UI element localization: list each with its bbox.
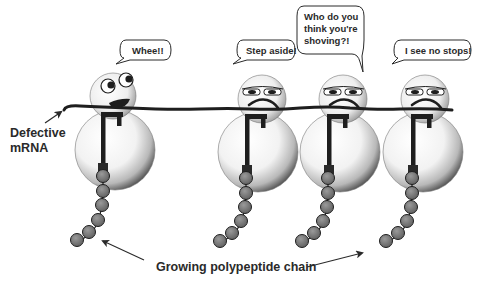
ribosome-1 bbox=[75, 73, 155, 190]
diagram-canvas: Whee!! Step aside! Who do you think you'… bbox=[0, 0, 479, 285]
ribosome-2 bbox=[218, 75, 298, 192]
speech-text-line2: think you're bbox=[304, 23, 357, 34]
speech-bubble-1: Whee!! bbox=[116, 40, 171, 64]
ribosome-large-subunit bbox=[383, 112, 463, 192]
ribosome-3 bbox=[300, 75, 380, 192]
ribosome-4 bbox=[383, 75, 463, 192]
speech-text-step-aside: Step aside! bbox=[246, 45, 297, 56]
speech-bubble-3: Who do you think you're shoving?! bbox=[297, 6, 364, 72]
speech-text-line3: shoving?! bbox=[304, 35, 349, 46]
speech-text-whee: Whee!! bbox=[132, 45, 164, 56]
mrna-arrow-icon bbox=[45, 112, 61, 123]
ribosome-large-subunit bbox=[218, 112, 298, 192]
chain-arrow-left-icon bbox=[103, 241, 144, 260]
mrna-label-line1: Defective bbox=[10, 126, 66, 140]
mrna-label-line2: mRNA bbox=[10, 141, 48, 155]
speech-bubble-2: Step aside! bbox=[233, 40, 297, 64]
ribosome-stalling-diagram: Whee!! Step aside! Who do you think you'… bbox=[0, 0, 479, 285]
speech-bubble-4: I see no stops! bbox=[392, 40, 472, 64]
ribosome-large-subunit bbox=[300, 112, 380, 192]
chain-label: Growing polypeptide chain bbox=[156, 260, 316, 274]
ribosome-large-subunit bbox=[75, 110, 155, 190]
speech-text-no-stops: I see no stops! bbox=[405, 45, 472, 56]
speech-text-line1: Who do you bbox=[304, 11, 359, 22]
